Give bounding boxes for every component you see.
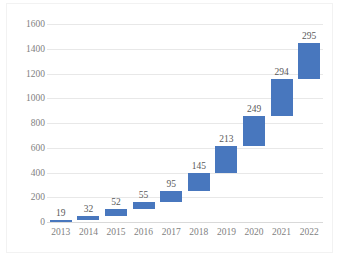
bar-2020[interactable] [243, 116, 265, 147]
y-tick-label: 200 [3, 192, 45, 202]
data-label-2016: 55 [129, 190, 159, 201]
x-tick-label-2014: 2014 [74, 227, 102, 238]
bar-2013[interactable] [50, 220, 72, 222]
y-tick-label: 400 [3, 168, 45, 178]
y-tick-label: 800 [3, 118, 45, 128]
x-tick-label-2015: 2015 [102, 227, 130, 238]
y-tick-label: 1000 [3, 93, 45, 103]
y-tick-label: 1600 [3, 19, 45, 29]
chart-container: 02004006008001000120014001600 2013201420… [0, 0, 339, 257]
bar-2014[interactable] [77, 216, 99, 220]
data-label-2014: 32 [73, 204, 103, 215]
data-label-2021: 294 [267, 67, 297, 78]
data-label-2020: 249 [239, 104, 269, 115]
x-tick-label-2020: 2020 [240, 227, 268, 238]
zero-axis-line [47, 222, 323, 223]
bar-2021[interactable] [271, 79, 293, 115]
x-tick-label-2013: 2013 [47, 227, 75, 238]
data-label-2017: 95 [156, 179, 186, 190]
bar-2019[interactable] [215, 146, 237, 172]
bar-series [47, 24, 323, 222]
x-tick-label-2021: 2021 [268, 227, 296, 238]
plot-wrapper: 02004006008001000120014001600 2013201420… [0, 0, 339, 257]
y-axis: 02004006008001000120014001600 [0, 0, 45, 257]
data-label-2019: 213 [211, 134, 241, 145]
x-tick-label-2019: 2019 [212, 227, 240, 238]
bar-2022[interactable] [298, 43, 320, 80]
data-label-2015: 52 [101, 197, 131, 208]
bar-2018[interactable] [188, 173, 210, 191]
plot-area [47, 24, 323, 222]
y-tick-label: 600 [3, 143, 45, 153]
data-label-2022: 295 [294, 31, 324, 42]
y-tick-label: 1200 [3, 69, 45, 79]
x-tick-label-2022: 2022 [295, 227, 323, 238]
y-tick-label: 1400 [3, 44, 45, 54]
bar-2015[interactable] [105, 209, 127, 215]
bar-2016[interactable] [133, 202, 155, 209]
data-label-2018: 145 [184, 161, 214, 172]
x-tick-label-2017: 2017 [157, 227, 185, 238]
bar-2017[interactable] [160, 191, 182, 203]
x-tick-label-2018: 2018 [185, 227, 213, 238]
data-label-2013: 19 [46, 208, 76, 219]
x-tick-label-2016: 2016 [130, 227, 158, 238]
y-tick-label: 0 [3, 217, 45, 227]
